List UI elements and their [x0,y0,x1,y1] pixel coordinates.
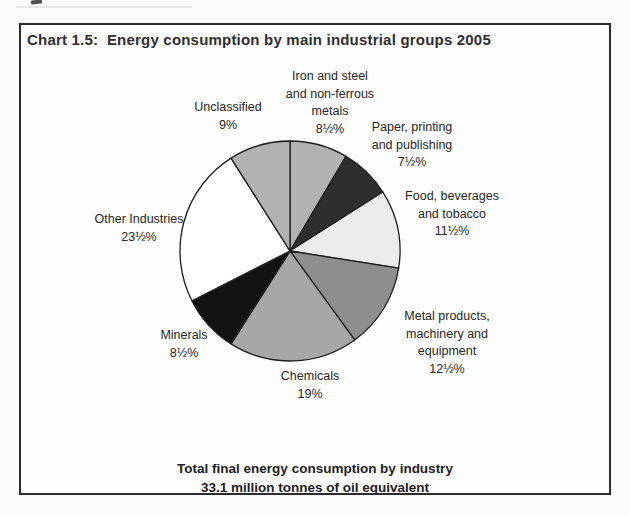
cropped-text-artifact-line [16,6,192,8]
slice-label-minerals: Minerals 8½% [160,327,207,362]
chart-footer: Total final energy consumption by indust… [19,459,611,497]
slice-label-metal-products: Metal products, machinery and equipment … [404,308,489,378]
slice-label-chemicals: Chemicals 19% [281,368,339,403]
chart-title: Chart 1.5: Energy consumption by main in… [27,31,491,48]
page: Chart 1.5: Energy consumption by main in… [0,0,630,516]
slice-label-other-industries: Other Industries 23½% [95,211,184,246]
slice-label-paper-printing: Paper, printing and publishing 7½% [372,119,453,172]
cropped-text-artifact [31,0,42,5]
footer-line-1: Total final energy consumption by indust… [19,459,611,478]
footer-line-2: 33.1 million tonnes of oil equivalent [19,478,611,497]
slice-label-iron-and-steel: Iron and steel and non-ferrous metals 8½… [286,68,374,138]
slice-label-unclassified: Unclassified 9% [194,99,261,134]
slice-label-food-beverages: Food, beverages and tobacco 11½% [405,188,499,241]
